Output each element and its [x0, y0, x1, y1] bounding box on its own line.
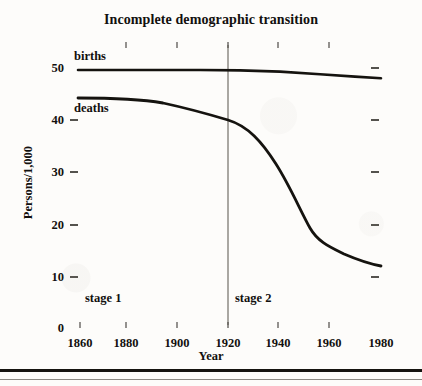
y-tick-marks-right — [371, 68, 379, 277]
y-tick-marks-left — [70, 120, 78, 277]
x-axis-title: Year — [0, 349, 422, 364]
y-tick-label-50: 50 — [38, 61, 64, 76]
y-tick-label-30: 30 — [38, 165, 64, 180]
series-label-births: births — [74, 49, 106, 64]
figure: Incomplete demographic transition — [0, 0, 422, 386]
y-tick-label-0: 0 — [38, 321, 64, 336]
y-tick-label-20: 20 — [38, 218, 64, 233]
y-tick-label-10: 10 — [38, 270, 64, 285]
annotation-stage-2: stage 2 — [235, 291, 271, 306]
x-tick-marks-bottom — [80, 322, 329, 328]
page-rule-thick — [0, 369, 422, 372]
page-rule-thin — [0, 379, 422, 380]
births-line — [78, 70, 381, 78]
y-axis-title: Persons/1,000 — [21, 123, 36, 243]
deaths-line — [78, 98, 381, 266]
annotation-stage-1: stage 1 — [85, 291, 121, 306]
y-axis-title-wrap: Persons/1,000 — [8, 120, 42, 250]
y-tick-label-40: 40 — [38, 113, 64, 128]
series-label-deaths: deaths — [74, 101, 109, 116]
